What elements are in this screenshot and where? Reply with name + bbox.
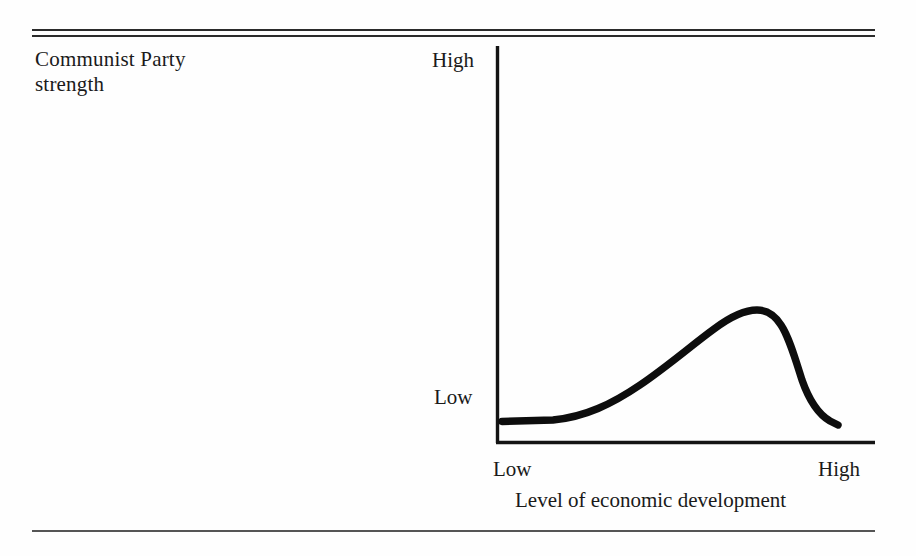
bottom-rule — [32, 530, 875, 532]
x-tick-label-high: High — [818, 457, 860, 481]
x-tick-label-low: Low — [493, 457, 532, 481]
y-tick-label-low: Low — [434, 385, 473, 409]
y-tick-label-high: High — [432, 48, 474, 72]
plot-area — [0, 0, 916, 556]
x-axis-title: Level of economic development — [515, 488, 786, 512]
data-curve — [502, 310, 838, 425]
figure-page: Communist Party strength High Low Low Hi… — [0, 0, 916, 556]
